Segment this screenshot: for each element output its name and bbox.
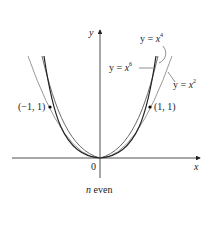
origin-label: 0: [91, 162, 96, 172]
point-neg1-1: [48, 105, 51, 108]
label-prefix: y =: [140, 33, 156, 44]
figure-caption: n even: [86, 185, 112, 195]
label-exp: 4: [160, 32, 163, 38]
label-exp: 2: [193, 78, 196, 84]
x-axis-label: x: [194, 162, 198, 172]
caption-rest: even: [91, 184, 112, 195]
y-axis-label: y: [89, 28, 93, 38]
point-label-neg1-1: (−1, 1): [18, 102, 45, 112]
curve-label-x6: y = x6: [109, 63, 132, 73]
label-prefix: y =: [109, 62, 125, 73]
point-label-1-1: (1, 1): [154, 102, 176, 112]
curve-label-x4: y = x4: [140, 34, 163, 44]
label-exp: 6: [129, 61, 132, 67]
curve-label-x2: y = x2: [173, 80, 196, 90]
point-1-1: [148, 105, 151, 108]
leader-x4: [159, 46, 166, 63]
label-prefix: y =: [173, 79, 189, 90]
